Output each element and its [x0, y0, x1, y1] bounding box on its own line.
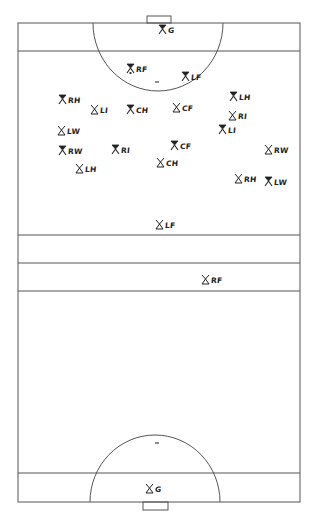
player-position-label: LF	[165, 222, 176, 230]
player-marker-outline: CF	[172, 101, 193, 113]
player-marker-outline: RF	[201, 273, 223, 285]
player-position-label: G	[168, 27, 175, 35]
outline-player-icon	[57, 125, 66, 136]
player-marker-filled: LH	[229, 90, 251, 102]
player-position-label: CH	[166, 160, 179, 168]
outline-player-icon	[155, 219, 164, 230]
player-position-label: RH	[244, 176, 257, 184]
player-position-label: LI	[100, 107, 109, 115]
player-position-label: G	[155, 486, 162, 494]
filled-player-icon	[158, 24, 167, 35]
player-position-label: RF	[211, 277, 223, 285]
player-marker-filled: CH	[126, 103, 148, 115]
player-marker-filled: RH	[58, 93, 81, 105]
player-position-label: RW	[274, 147, 289, 155]
hockey-field	[0, 0, 314, 524]
player-marker-outline: LH	[75, 162, 97, 174]
filled-player-icon	[170, 140, 179, 151]
player-position-label: LW	[67, 128, 81, 136]
filled-player-icon	[126, 104, 135, 115]
top-goal	[147, 16, 171, 23]
bottom-goal	[143, 502, 168, 510]
outline-player-icon	[75, 163, 84, 174]
player-position-label: RI	[121, 147, 131, 155]
player-marker-filled: RW	[58, 144, 83, 156]
player-position-label: RF	[136, 66, 148, 74]
outline-player-icon	[264, 144, 273, 155]
player-position-label: RI	[238, 113, 248, 121]
player-marker-outline: CH	[156, 156, 178, 168]
player-position-label: LH	[85, 166, 97, 174]
player-marker-outline: RH	[234, 172, 257, 184]
player-position-label: CF	[180, 143, 192, 151]
player-marker-outline: LF	[155, 218, 176, 230]
player-position-label: LW	[274, 179, 288, 187]
player-marker-filled: CF	[170, 139, 191, 151]
player-position-label: RW	[68, 148, 83, 156]
player-marker-filled: RF	[126, 62, 148, 74]
filled-player-icon	[229, 91, 238, 102]
outline-player-icon	[90, 104, 99, 115]
outline-player-icon	[201, 274, 210, 285]
filled-player-icon	[58, 145, 67, 156]
player-marker-outline: LW	[57, 124, 80, 136]
player-position-label: RH	[68, 97, 81, 105]
player-marker-filled: RI	[111, 143, 130, 155]
player-marker-filled: G	[158, 23, 174, 35]
player-position-label: CF	[182, 105, 194, 113]
outline-player-icon	[156, 157, 165, 168]
filled-player-icon	[181, 71, 190, 82]
outline-player-icon	[234, 173, 243, 184]
filled-player-icon	[218, 124, 227, 135]
outline-player-icon	[145, 483, 154, 494]
player-position-label: LI	[228, 127, 237, 135]
player-marker-outline: RI	[228, 109, 247, 121]
player-position-label: CH	[136, 107, 149, 115]
filled-player-icon	[58, 94, 67, 105]
filled-player-icon	[264, 176, 273, 187]
player-marker-outline: LI	[90, 103, 108, 115]
outline-player-icon	[228, 110, 237, 121]
player-position-label: LH	[239, 94, 251, 102]
filled-player-icon	[126, 63, 135, 74]
filled-player-icon	[111, 144, 120, 155]
player-marker-outline: G	[145, 482, 161, 494]
player-position-label: LF	[191, 74, 202, 82]
player-marker-outline: RW	[264, 143, 289, 155]
player-marker-filled: LW	[264, 175, 287, 187]
outline-player-icon	[172, 102, 181, 113]
player-marker-filled: LI	[218, 123, 236, 135]
player-marker-filled: LF	[181, 70, 202, 82]
